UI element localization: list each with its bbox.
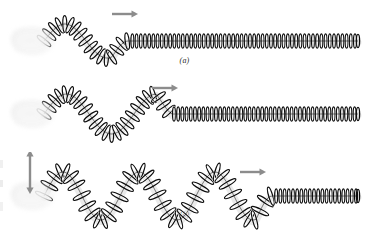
hand xyxy=(11,183,53,209)
panel-c: (c) xyxy=(0,152,369,242)
panel-c-illustration xyxy=(0,152,369,242)
caption-a: (a) xyxy=(0,56,369,65)
propagation-arrow xyxy=(112,10,138,17)
propagation-arrow xyxy=(240,168,266,175)
hand-oscillation-arrow xyxy=(26,152,33,194)
hand xyxy=(11,101,53,127)
propagation-arrow xyxy=(152,84,178,91)
wave-figure: (a) (b) (c) xyxy=(0,0,369,242)
panel-a: (a) xyxy=(0,0,369,78)
panel-a-illustration xyxy=(0,0,369,78)
hand xyxy=(11,28,53,54)
panel-b-illustration xyxy=(0,74,369,154)
panel-b: (b) xyxy=(0,74,369,154)
